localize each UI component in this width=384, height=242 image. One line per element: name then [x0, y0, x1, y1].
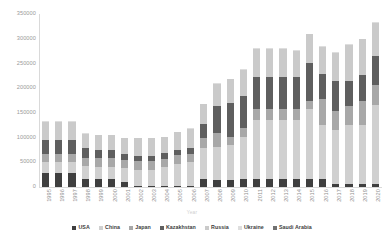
bar-segment-russia[interactable] — [161, 137, 168, 153]
bar-segment-japan[interactable] — [161, 159, 168, 167]
bar-segment-russia[interactable] — [42, 122, 49, 140]
bar-column[interactable] — [118, 14, 131, 187]
bar-segment-japan[interactable] — [306, 101, 313, 109]
bar-segment-kazakhstan[interactable] — [95, 150, 102, 158]
stacked-bar[interactable] — [332, 52, 339, 187]
bar-segment-usa[interactable] — [200, 179, 207, 187]
bar-segment-china[interactable] — [359, 125, 366, 184]
bar-segment-japan[interactable] — [108, 158, 115, 166]
bar-segment-japan[interactable] — [240, 128, 247, 136]
stacked-bar[interactable] — [187, 128, 194, 187]
bar-segment-china[interactable] — [174, 164, 181, 186]
stacked-bar[interactable] — [148, 138, 155, 187]
bar-segment-china[interactable] — [319, 125, 326, 179]
bar-segment-russia[interactable] — [266, 49, 273, 78]
bar-segment-kazakhstan[interactable] — [82, 148, 89, 158]
legend-item-japan[interactable]: Japan — [129, 225, 151, 230]
bar-segment-kazakhstan[interactable] — [319, 74, 326, 99]
bar-column[interactable] — [92, 14, 105, 187]
bar-segment-japan[interactable] — [372, 85, 379, 105]
bar-segment-russia[interactable] — [174, 132, 181, 150]
bar-segment-russia[interactable] — [134, 138, 141, 156]
bar-segment-russia[interactable] — [279, 49, 286, 78]
bar-column[interactable] — [39, 14, 52, 187]
bar-column[interactable] — [158, 14, 171, 187]
bar-segment-china[interactable] — [253, 120, 260, 179]
stacked-bar[interactable] — [82, 133, 89, 187]
bar-column[interactable] — [276, 14, 289, 187]
bar-segment-usa[interactable] — [279, 179, 286, 187]
bar-segment-china[interactable] — [68, 162, 75, 173]
bar-segment-china[interactable] — [148, 170, 155, 186]
bar-column[interactable] — [224, 14, 237, 187]
bar-segment-japan[interactable] — [213, 133, 220, 147]
bar-segment-china[interactable] — [332, 130, 339, 184]
bar-segment-kazakhstan[interactable] — [372, 56, 379, 86]
stacked-bar[interactable] — [306, 34, 313, 187]
bar-column[interactable] — [145, 14, 158, 187]
stacked-bar[interactable] — [293, 50, 300, 187]
stacked-bar[interactable] — [345, 44, 352, 187]
legend-item-russia[interactable]: Russia — [205, 225, 229, 230]
stacked-bar[interactable] — [240, 69, 247, 187]
bar-segment-china[interactable] — [240, 137, 247, 180]
bar-segment-russia[interactable] — [240, 70, 247, 96]
bar-segment-russia[interactable] — [293, 51, 300, 78]
bar-column[interactable] — [342, 14, 355, 187]
bar-column[interactable] — [210, 14, 223, 187]
bar-segment-japan[interactable] — [332, 111, 339, 130]
bar-segment-china[interactable] — [161, 167, 168, 186]
bar-segment-usa[interactable] — [253, 179, 260, 187]
bar-column[interactable] — [65, 14, 78, 187]
stacked-bar[interactable] — [372, 22, 379, 187]
stacked-bar[interactable] — [42, 121, 49, 187]
bar-segment-russia[interactable] — [319, 47, 326, 75]
legend-item-china[interactable]: China — [99, 225, 120, 230]
bar-segment-japan[interactable] — [55, 154, 62, 162]
bar-segment-china[interactable] — [213, 147, 220, 180]
bar-segment-russia[interactable] — [332, 53, 339, 82]
bar-column[interactable] — [250, 14, 263, 187]
bar-segment-usa[interactable] — [266, 179, 273, 187]
stacked-bar[interactable] — [319, 46, 326, 187]
legend-item-saudi-arabia[interactable]: Saudi Arabia — [273, 225, 312, 230]
bar-segment-china[interactable] — [82, 166, 89, 178]
bar-segment-china[interactable] — [200, 148, 207, 179]
bar-column[interactable] — [197, 14, 210, 187]
bar-segment-japan[interactable] — [134, 161, 141, 169]
bar-segment-russia[interactable] — [345, 45, 352, 82]
stacked-bar[interactable] — [279, 48, 286, 187]
bar-segment-russia[interactable] — [95, 135, 102, 150]
bar-segment-japan[interactable] — [95, 158, 102, 166]
bar-segment-kazakhstan[interactable] — [108, 150, 115, 158]
bar-segment-usa[interactable] — [319, 179, 326, 187]
bar-segment-russia[interactable] — [148, 138, 155, 156]
bar-segment-kazakhstan[interactable] — [359, 75, 366, 101]
bar-column[interactable] — [52, 14, 65, 187]
bar-segment-usa[interactable] — [306, 179, 313, 187]
bar-segment-russia[interactable] — [372, 23, 379, 56]
bar-segment-kazakhstan[interactable] — [332, 81, 339, 111]
bar-segment-japan[interactable] — [345, 106, 352, 125]
bar-segment-russia[interactable] — [108, 135, 115, 150]
bar-segment-russia[interactable] — [121, 138, 128, 154]
bar-segment-usa[interactable] — [68, 173, 75, 187]
bar-segment-kazakhstan[interactable] — [293, 77, 300, 109]
bar-segment-usa[interactable] — [359, 184, 366, 187]
bar-segment-russia[interactable] — [306, 34, 313, 63]
bar-segment-japan[interactable] — [82, 158, 89, 166]
bar-segment-kazakhstan[interactable] — [42, 140, 49, 154]
bar-segment-kazakhstan[interactable] — [55, 140, 62, 154]
stacked-bar[interactable] — [108, 135, 115, 187]
bar-segment-kazakhstan[interactable] — [266, 77, 273, 109]
bar-segment-usa[interactable] — [293, 179, 300, 187]
bar-segment-russia[interactable] — [213, 84, 220, 106]
bar-segment-kazakhstan[interactable] — [68, 140, 75, 154]
bar-segment-russia[interactable] — [359, 39, 366, 75]
bar-segment-china[interactable] — [227, 145, 234, 180]
bar-column[interactable] — [329, 14, 342, 187]
bar-segment-china[interactable] — [121, 168, 128, 182]
bar-column[interactable] — [263, 14, 276, 187]
bar-segment-usa[interactable] — [187, 186, 194, 187]
stacked-bar[interactable] — [161, 137, 168, 187]
